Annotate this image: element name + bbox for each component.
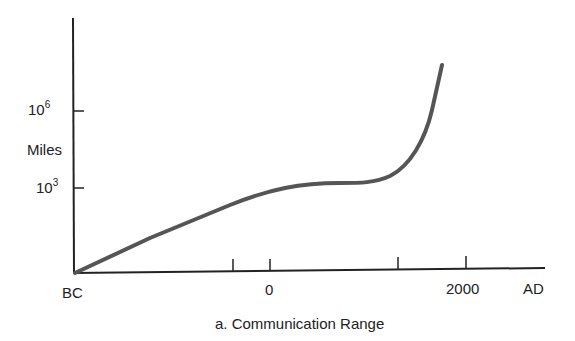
x-axis <box>73 268 545 273</box>
x-label-bc: BC <box>62 284 83 301</box>
y-axis-title: Miles <box>27 141 62 158</box>
y-axis <box>73 18 74 273</box>
x-label-ad: AD <box>523 280 544 297</box>
y-tick-label-1e6: 106 <box>28 101 50 118</box>
x-tick-label-2000: 2000 <box>446 280 479 297</box>
x-tick-label-0: 0 <box>265 281 273 298</box>
chart-canvas <box>0 0 575 341</box>
communication-range-curve <box>75 65 442 273</box>
y-tick-label-1e3: 103 <box>36 179 58 196</box>
chart-caption: a. Communication Range <box>215 315 384 332</box>
